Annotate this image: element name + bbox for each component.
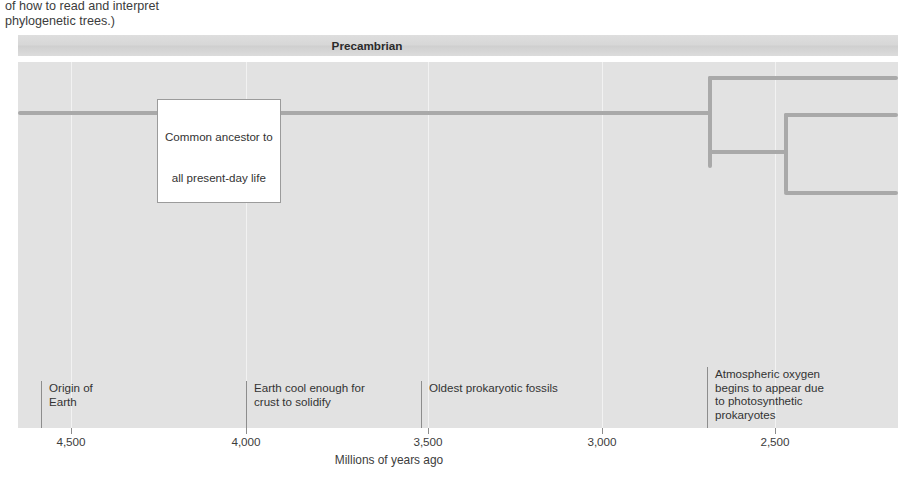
era-band-precambrian: Precambrian — [18, 35, 898, 56]
gridline — [428, 62, 429, 428]
tree-tip-branch-2 — [784, 113, 898, 117]
x-axis: 4,5004,0003,5003,0002,500 Millions of ye… — [0, 428, 898, 497]
tree-node-2-connector — [784, 113, 788, 193]
caption-line-2: phylogenetic trees.) — [5, 14, 325, 29]
tree-trunk-branch — [18, 111, 712, 115]
common-ancestor-callout: Common ancestor to all present-day life — [157, 99, 281, 203]
event-annotation-line: Earth cool enough for — [254, 381, 365, 395]
gridline — [602, 62, 603, 428]
axis-tick-mark — [602, 428, 603, 434]
gridline — [71, 62, 72, 428]
axis-tick-label: 3,000 — [587, 435, 616, 448]
event-annotation-line: Earth — [49, 395, 93, 409]
tree-internal-branch-2 — [708, 150, 788, 154]
era-band-label: Precambrian — [18, 35, 898, 56]
callout-line-2: all present-day life — [165, 171, 273, 185]
event-annotation-crust-solidify: Earth cool enough forcrust to solidify — [246, 381, 365, 428]
event-annotation-line: prokaryotes — [715, 408, 824, 422]
event-annotation-line: begins to appear due — [715, 381, 824, 395]
axis-title: Millions of years ago — [0, 453, 898, 467]
event-annotation-atmospheric-oxygen: Atmospheric oxygenbegins to appear dueto… — [707, 367, 824, 428]
event-annotation-oldest-prokaryotic-fossils: Oldest prokaryotic fossils — [421, 381, 558, 428]
event-annotation-line: to photosynthetic — [715, 394, 824, 408]
axis-tick-label: 3,500 — [413, 435, 442, 448]
axis-tick-label: 4,500 — [56, 435, 85, 448]
tree-tip-branch-3 — [784, 191, 898, 195]
event-annotation-line: Origin of — [49, 381, 93, 395]
axis-tick-mark — [71, 428, 72, 434]
tree-node-1-connector — [708, 76, 712, 168]
event-annotation-line: Atmospheric oxygen — [715, 367, 824, 381]
axis-tick-mark — [428, 428, 429, 434]
event-annotation-line: crust to solidify — [254, 395, 365, 409]
timeline-plot-area: Origin ofEarthEarth cool enough forcrust… — [18, 62, 898, 428]
caption-line-1: of how to read and interpret — [5, 0, 325, 14]
caption-tail-text: of how to read and interpret phylogeneti… — [5, 0, 325, 29]
axis-tick-label: 4,000 — [231, 435, 260, 448]
callout-line-1: Common ancestor to — [165, 130, 273, 144]
tree-tip-branch-1 — [708, 76, 898, 80]
event-annotation-origin-of-earth: Origin ofEarth — [41, 381, 93, 428]
axis-tick-mark — [775, 428, 776, 434]
axis-tick-mark — [246, 428, 247, 434]
event-annotation-line: Oldest prokaryotic fossils — [429, 381, 558, 395]
axis-tick-label: 2,500 — [760, 435, 789, 448]
